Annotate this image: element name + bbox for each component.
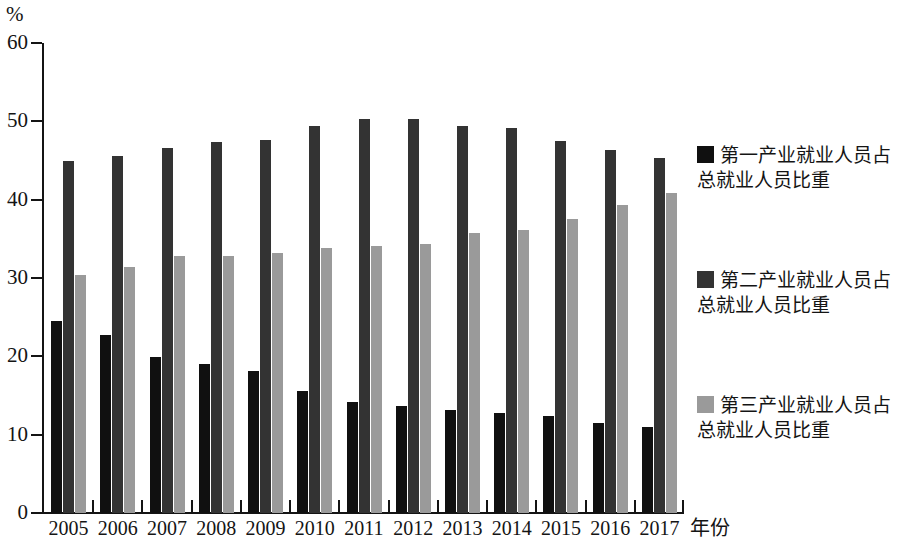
y-axis-tick-label: 10 — [0, 424, 28, 445]
y-axis-tick — [31, 355, 42, 357]
bar — [494, 413, 505, 513]
bar — [371, 246, 382, 513]
y-axis-tick — [31, 42, 42, 44]
x-axis-end-cap — [682, 500, 684, 514]
legend-item-label: 第三产业就业人员占总就业人员比重 — [720, 393, 911, 443]
bar — [150, 357, 161, 513]
legend-item-label: 第二产业就业人员占总就业人员比重 — [720, 268, 911, 318]
y-axis-tick — [31, 199, 42, 201]
bar — [617, 205, 628, 513]
legend-item[interactable]: 第二产业就业人员占总就业人员比重 — [697, 268, 911, 318]
bar — [260, 140, 271, 513]
y-axis-tick — [31, 434, 42, 436]
bar — [469, 233, 480, 513]
x-axis-tick-label: 2017 — [634, 518, 684, 538]
y-axis-tick-label: 20 — [0, 345, 28, 366]
x-axis-tick — [388, 500, 390, 514]
x-axis-tick-label: 2016 — [585, 518, 635, 538]
bar — [248, 371, 259, 513]
y-axis-tick-label: 40 — [0, 189, 28, 210]
bar — [100, 335, 111, 513]
y-axis-tick-label: 0 — [0, 502, 28, 523]
bar — [593, 423, 604, 513]
bar — [567, 219, 578, 513]
bar — [112, 156, 123, 513]
x-axis-tick — [338, 500, 340, 514]
legend-swatch-icon — [697, 146, 714, 163]
x-axis-tick-label: 2010 — [290, 518, 340, 538]
bar — [457, 126, 468, 513]
bar — [555, 141, 566, 513]
bar — [543, 416, 554, 513]
x-axis-tick — [289, 500, 291, 514]
bar — [162, 148, 173, 513]
x-axis-tick-label: 2008 — [191, 518, 241, 538]
x-axis-tick-label: 2005 — [44, 518, 94, 538]
bar — [297, 391, 308, 513]
bar — [359, 119, 370, 513]
x-axis-tick-label: 2011 — [339, 518, 389, 538]
bar — [124, 267, 135, 513]
bar — [174, 256, 185, 513]
y-axis-tick-label: 50 — [0, 110, 28, 131]
legend-item-label: 第一产业就业人员占总就业人员比重 — [720, 143, 911, 193]
x-axis-tick — [634, 500, 636, 514]
bar — [666, 193, 677, 513]
y-axis-tick — [31, 512, 42, 514]
x-axis-tick-label: 2012 — [388, 518, 438, 538]
legend-item[interactable]: 第三产业就业人员占总就业人员比重 — [697, 393, 911, 443]
bar-chart: % 0102030405060 200520062007200820092010… — [0, 0, 914, 545]
bar — [445, 410, 456, 513]
legend-swatch-icon — [697, 396, 714, 413]
y-axis-unit-label: % — [6, 4, 24, 25]
x-axis-tick — [437, 500, 439, 514]
x-axis-tick — [585, 500, 587, 514]
bar — [654, 158, 665, 513]
x-axis-tick-label: 2015 — [536, 518, 586, 538]
bar — [642, 427, 653, 513]
x-axis-tick-label: 2014 — [487, 518, 537, 538]
bar — [223, 256, 234, 513]
y-axis-line — [42, 43, 44, 514]
legend-item[interactable]: 第一产业就业人员占总就业人员比重 — [697, 143, 911, 193]
bar — [211, 142, 222, 513]
bar — [321, 248, 332, 513]
bar — [408, 119, 419, 513]
bar — [75, 275, 86, 513]
bar — [518, 230, 529, 513]
y-axis-tick-label: 30 — [0, 267, 28, 288]
x-axis-tick-label: 2006 — [93, 518, 143, 538]
y-axis-tick — [31, 277, 42, 279]
bar — [309, 126, 320, 513]
bar — [272, 253, 283, 513]
x-axis-tick — [240, 500, 242, 514]
bar — [199, 364, 210, 513]
y-axis-tick-label: 60 — [0, 32, 28, 53]
bar — [51, 321, 62, 513]
legend-swatch-icon — [697, 271, 714, 288]
x-axis-tick — [535, 500, 537, 514]
x-axis-title: 年份 — [690, 518, 730, 538]
bar — [63, 161, 74, 514]
x-axis-tick — [191, 500, 193, 514]
y-axis-tick — [31, 120, 42, 122]
bar — [396, 406, 407, 513]
bar — [605, 150, 616, 513]
x-axis-tick-label: 2007 — [142, 518, 192, 538]
bar — [347, 402, 358, 513]
bar — [506, 128, 517, 513]
bar — [420, 244, 431, 513]
x-axis-tick-label: 2009 — [241, 518, 291, 538]
x-axis-tick — [92, 500, 94, 514]
x-axis-tick — [141, 500, 143, 514]
x-axis-tick-label: 2013 — [437, 518, 487, 538]
x-axis-tick — [486, 500, 488, 514]
